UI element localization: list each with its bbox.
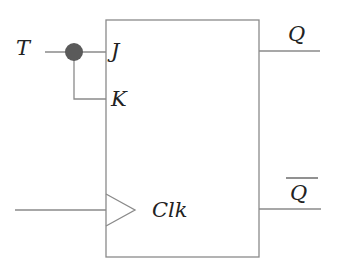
k-label: K xyxy=(110,87,128,111)
jk-t-flipflop-diagram: T J K Clk Q Q xyxy=(0,0,337,270)
q-bar-label: Q xyxy=(290,181,307,205)
junction-dot xyxy=(65,43,83,61)
q-label: Q xyxy=(288,22,305,46)
clk-label: Clk xyxy=(152,198,188,222)
t-label: T xyxy=(16,36,32,60)
